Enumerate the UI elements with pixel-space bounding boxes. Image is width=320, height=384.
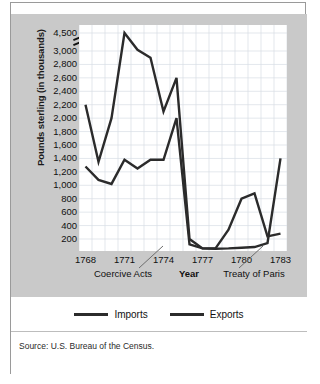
source-section: Source: U.S. Bureau of the Census.: [11, 331, 307, 374]
source-note: Source: U.S. Bureau of the Census.: [19, 341, 154, 351]
legend-item-exports[interactable]: Exports: [170, 309, 244, 320]
y-tick-label: 1,200: [53, 167, 77, 177]
x-tick-label: 1783: [270, 254, 291, 265]
y-tick-label: 800: [61, 194, 77, 204]
figure-card: Pounds sterling (in thousands) 200400600…: [10, 2, 306, 374]
legend-label-imports: Imports: [114, 309, 147, 320]
y-tick-label: 2,000: [53, 113, 77, 123]
y-tick-label: 2,600: [53, 73, 77, 83]
gridlines: [79, 25, 287, 251]
y-axis-tick-labels: 2004006008001,0001,2001,4001,6001,8002,0…: [29, 25, 77, 251]
annotation-coercive-acts: Coercive Acts: [94, 268, 152, 279]
y-tick-label: 2,800: [53, 59, 77, 69]
x-axis-title: Year: [179, 268, 199, 279]
y-tick-label: 200: [61, 234, 77, 244]
y-tick-label: 2,400: [53, 86, 77, 96]
x-tick-label: 1780: [231, 254, 252, 265]
figure-title-strip: [11, 3, 305, 14]
legend-label-exports: Exports: [210, 309, 244, 320]
x-tick-label: 1774: [153, 254, 174, 265]
y-tick-label: 1,000: [53, 180, 77, 190]
x-tick-label: 1768: [75, 254, 96, 265]
y-tick-label: 4,500: [53, 28, 77, 38]
y-tick-label: 3,000: [53, 46, 77, 56]
y-tick-label: 1,800: [53, 127, 77, 137]
legend-swatch-exports: [170, 313, 204, 316]
y-tick-label: 400: [61, 221, 77, 231]
plot-area: [79, 25, 287, 251]
legend-item-imports[interactable]: Imports: [74, 309, 147, 320]
x-axis-tick-labels: 176817711774177717801783: [79, 254, 287, 268]
chart-legend: Imports Exports: [11, 297, 307, 331]
y-tick-label: 2,200: [53, 100, 77, 110]
x-tick-label: 1771: [114, 254, 135, 265]
chart-panel: Pounds sterling (in thousands) 200400600…: [11, 14, 307, 297]
y-tick-label: 600: [61, 207, 77, 217]
legend-swatch-imports: [74, 313, 108, 316]
x-tick-label: 1777: [192, 254, 213, 265]
screenshot-root: Pounds sterling (in thousands) 200400600…: [0, 0, 320, 384]
y-tick-label: 1,400: [53, 153, 77, 163]
annotation-treaty-of-paris: Treaty of Paris: [223, 268, 284, 279]
annotations: Coercive Acts Year Treaty of Paris: [11, 268, 307, 284]
y-tick-label: 1,600: [53, 140, 77, 150]
plot-svg: [79, 25, 287, 251]
